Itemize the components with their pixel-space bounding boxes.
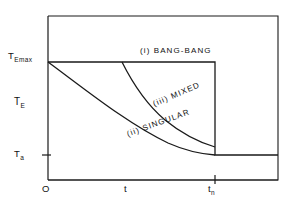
y-tick-label-ta: Ta	[14, 149, 24, 161]
x-tick-label-tn: tn	[208, 184, 215, 196]
figure-container: TEmax TE Ta O t tn (i) BANG-BANG (iii) M…	[0, 0, 290, 206]
curve-singular	[48, 62, 215, 155]
curve-label-bang-bang: (i) BANG-BANG	[140, 47, 212, 55]
x-tick-label-t: t	[124, 184, 127, 196]
plot-svg	[0, 0, 290, 206]
y-tick-label-temax: TEmax	[8, 51, 32, 63]
y-axis-label: TE	[14, 97, 25, 110]
x-axis-origin-label: O	[42, 184, 50, 194]
